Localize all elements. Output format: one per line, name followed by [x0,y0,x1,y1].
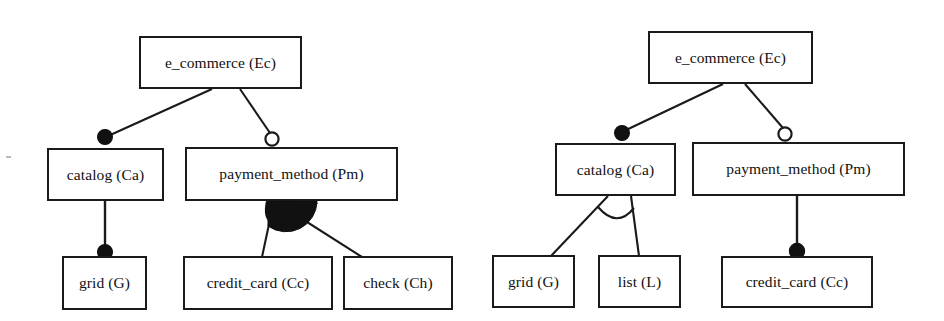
node-box-e-commerce-right[interactable]: e_commerce (Ec) [648,31,813,84]
mandatory-marker-ca-2 [615,126,630,141]
edge-ca-g-2 [551,196,608,256]
optional-marker-pm [265,132,278,145]
node-label: check (Ch) [359,274,436,291]
node-box-grid-right[interactable]: grid (G) [492,255,575,308]
edge-ca-l-2 [631,196,639,256]
node-box-payment-method-right[interactable]: payment_method (Pm) [692,142,905,196]
edge-ec-pm-2 [745,84,783,128]
node-label: catalog (Ca) [573,161,658,178]
node-box-check-left[interactable]: check (Ch) [343,256,453,310]
node-label: list (L) [614,273,665,290]
node-label: e_commerce (Ec) [161,54,280,71]
xor-group-arc-hollow [598,207,634,218]
node-label: catalog (Ca) [63,166,148,183]
node-label: grid (G) [504,273,563,290]
node-box-payment-method-left[interactable]: payment_method (Pm) [185,147,398,201]
node-label: grid (G) [75,274,134,291]
node-box-catalog-left[interactable]: catalog (Ca) [47,148,164,201]
edge-ec-pm [240,89,270,133]
optional-marker-pm-2 [778,127,791,140]
node-box-credit-card-right[interactable]: credit_card (Cc) [721,256,873,308]
node-box-grid-left[interactable]: grid (G) [62,256,147,310]
node-label: payment_method (Pm) [215,165,367,182]
node-label: payment_method (Pm) [722,160,874,177]
node-box-list-right[interactable]: list (L) [598,255,681,308]
node-box-credit-card-left[interactable]: credit_card (Cc) [183,256,333,310]
node-label: credit_card (Cc) [742,273,853,290]
scan-artifact [6,156,11,158]
node-box-catalog-right[interactable]: catalog (Ca) [555,143,676,196]
edge-ec-ca-2 [624,84,723,131]
edge-ec-ca [108,89,212,136]
figure-canvas: e_commerce (Ec) catalog (Ca) payment_met… [0,0,944,321]
node-label: e_commerce (Ec) [671,49,790,66]
node-box-e-commerce-left[interactable]: e_commerce (Ec) [139,36,302,89]
node-label: credit_card (Cc) [203,274,314,291]
or-group-arc-filled-blend [265,201,318,226]
mandatory-marker-ca [98,130,113,145]
